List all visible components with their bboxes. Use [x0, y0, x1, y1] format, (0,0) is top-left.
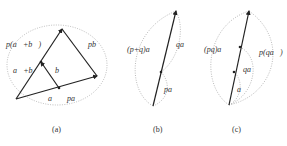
- label-p-a: pa⃗: [66, 94, 81, 103]
- label-p-a: pa⃗: [163, 85, 178, 94]
- arrow-dot-p-a: [160, 71, 163, 74]
- caption-b: (b): [153, 125, 163, 134]
- arrow-dot-a: [233, 71, 236, 74]
- label-a: a⃗: [48, 94, 58, 103]
- caption-a: (a): [52, 125, 61, 134]
- dotted-arc-outer-right-c: [229, 11, 273, 105]
- arrow-dot-a: [58, 87, 61, 90]
- panel-c: (pq)a⃗ p(qa⃗) qa⃗ a⃗ (c): [204, 11, 283, 134]
- vector-p-b: [62, 29, 97, 76]
- label-p-plus-q-a: (p+q)a⃗: [127, 45, 156, 54]
- label-a: a⃗: [237, 85, 247, 94]
- panel-b: (p+q)a⃗ qa⃗ pa⃗ (b): [127, 11, 190, 134]
- label-b: b⃗: [55, 66, 65, 75]
- label-q-a: qa⃗: [176, 40, 190, 49]
- arrow-dot-q-a: [239, 46, 242, 49]
- vector-scalar-multiplication-figure: p(a⃗+b⃗) pb⃗ a⃗+b⃗ b⃗ a⃗ pa⃗ (a) (p+q)a⃗…: [0, 0, 287, 146]
- label-pq-a: (pq)a⃗: [204, 45, 228, 54]
- label-p-qa: p(qa⃗): [258, 48, 283, 57]
- label-p-b: pb⃗: [87, 40, 102, 49]
- caption-c: (c): [232, 125, 241, 134]
- label-p-a-plus-b: p(a⃗+b⃗): [5, 40, 42, 49]
- panel-a: p(a⃗+b⃗) pb⃗ a⃗+b⃗ b⃗ a⃗ pa⃗ (a): [5, 25, 107, 134]
- arrow-dot-a-plus-b: [40, 61, 43, 64]
- label-q-a: qa⃗: [243, 65, 257, 74]
- label-a-plus-b: a⃗+b⃗: [13, 66, 39, 75]
